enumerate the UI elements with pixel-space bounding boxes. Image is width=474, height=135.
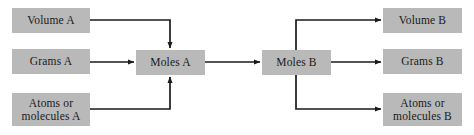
node-atoms-or-molecules-a[interactable]: Atoms or molecules A [12,93,90,126]
node-atoms-or-molecules-b-label: Atoms or molecules B [393,97,452,123]
connector-volume-a-to-moles-a [90,20,170,48]
node-volume-a[interactable]: Volume A [12,8,90,33]
node-moles-b-label: Moles B [276,56,316,69]
node-grams-b-label: Grams B [401,55,443,68]
stoichiometry-flowchart: Volume A Grams A Atoms or molecules A Mo… [0,0,474,135]
node-volume-b[interactable]: Volume B [383,8,462,33]
node-volume-b-label: Volume B [399,14,446,27]
node-grams-b[interactable]: Grams B [383,49,462,74]
node-volume-a-label: Volume A [27,14,74,27]
node-grams-a[interactable]: Grams A [12,49,90,74]
node-grams-a-label: Grams A [30,55,72,68]
node-moles-b[interactable]: Moles B [262,50,331,75]
node-moles-a-label: Moles A [150,56,190,69]
connector-moles-b-to-atoms-b [296,75,381,109]
node-moles-a[interactable]: Moles A [136,50,205,75]
node-atoms-or-molecules-a-label: Atoms or molecules A [22,97,81,123]
connector-atoms-a-to-moles-a [90,77,170,109]
node-atoms-or-molecules-b[interactable]: Atoms or molecules B [383,93,462,126]
connector-moles-b-to-volume-b [296,20,381,50]
